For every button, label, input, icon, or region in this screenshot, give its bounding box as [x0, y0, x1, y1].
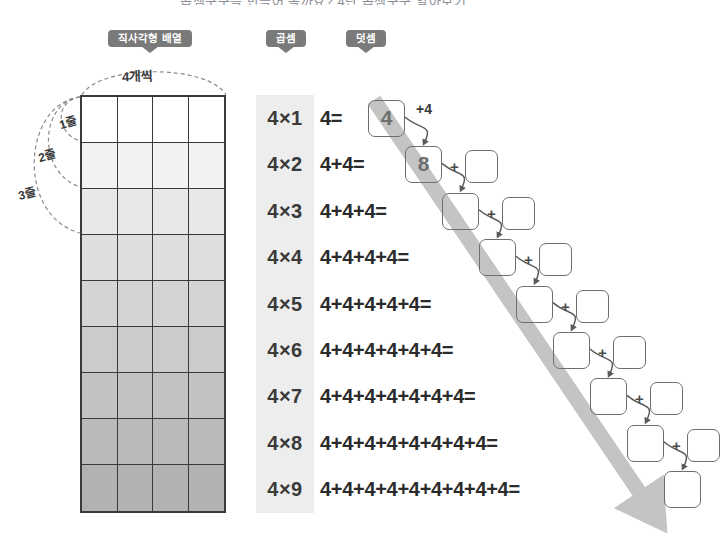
- header-tag-add: 덧셈식: [346, 30, 386, 47]
- step-increment-box[interactable]: [539, 243, 572, 276]
- answer-box[interactable]: [664, 471, 701, 508]
- array-cell: [82, 97, 118, 143]
- addition-expression: 4+4+4+4+4+4+4=: [320, 373, 475, 419]
- step-increment-box[interactable]: [613, 336, 646, 369]
- addition-expression: 4+4+4+4+4+4+4+4+4=: [320, 466, 520, 512]
- answer-box[interactable]: [590, 378, 627, 415]
- addition-row: 4=4+4: [320, 95, 689, 141]
- array-cell: [153, 419, 189, 465]
- rectangular-array-grid: [80, 95, 226, 513]
- multiplication-expression: 4×9: [256, 466, 314, 512]
- addition-expression: 4+4+4+4=: [320, 234, 409, 280]
- page-title: 곱셈구구를 만들어 볼까요? 4단 곱셈구구 알아보기: [180, 0, 680, 5]
- addition-expression: 4=: [320, 95, 342, 141]
- answer-box[interactable]: 4: [368, 100, 405, 137]
- multiplication-expression: 4×2: [256, 141, 314, 187]
- array-cell: [189, 143, 225, 189]
- array-cell: [189, 189, 225, 235]
- array-cell: [153, 97, 189, 143]
- grid-top-label: 4개씩: [122, 65, 154, 85]
- addition-row: 4+4+4+4=+: [320, 234, 689, 280]
- addition-column: 4=4+44+4=8+4+4+4=+4+4+4+4=+4+4+4+4+4=+4+…: [320, 95, 689, 513]
- array-cell: [82, 465, 118, 511]
- array-cell: [82, 419, 118, 465]
- step-increment-box[interactable]: [650, 382, 683, 415]
- array-cell: [153, 373, 189, 419]
- plus-sign: +: [487, 197, 496, 230]
- answer-box[interactable]: [516, 286, 553, 323]
- array-cell: [82, 327, 118, 373]
- addition-expression: 4+4+4+4+4=: [320, 281, 431, 327]
- array-cell: [153, 235, 189, 281]
- array-cell: [153, 465, 189, 511]
- multiplication-expression: 4×6: [256, 327, 314, 373]
- array-cell: [118, 327, 154, 373]
- addition-row: 4+4+4+4+4+4+4+4+4=: [320, 466, 689, 512]
- array-cell: [82, 281, 118, 327]
- array-cell: [118, 235, 154, 281]
- array-cell: [189, 97, 225, 143]
- step-increment-box[interactable]: [502, 197, 535, 230]
- addition-expression: 4+4+4+4+4+4+4+4=: [320, 420, 498, 466]
- addition-row: 4+4=8+: [320, 141, 689, 187]
- header-tag-array: 직사각형 배열: [108, 30, 192, 47]
- array-cell: [189, 465, 225, 511]
- addition-row: 4+4+4+4+4+4+4=+: [320, 373, 689, 419]
- array-cell: [118, 373, 154, 419]
- multiplication-expression: 4×1: [256, 95, 314, 141]
- step-increment-box[interactable]: [465, 150, 498, 183]
- array-cell: [118, 97, 154, 143]
- array-cell: [118, 281, 154, 327]
- answer-box[interactable]: [479, 239, 516, 276]
- plus-sign: +: [450, 150, 459, 183]
- header-tag-mult: 곱셈식: [266, 30, 306, 47]
- array-cell: [82, 143, 118, 189]
- array-cell: [153, 143, 189, 189]
- step-increment-box[interactable]: [687, 429, 720, 462]
- answer-box[interactable]: [627, 425, 664, 462]
- multiplication-column: 4×14×24×34×44×54×64×74×84×9: [256, 95, 314, 513]
- grid-row-label-3: 3줄: [16, 182, 37, 203]
- step-increment-label: +4: [416, 99, 432, 119]
- addition-expression: 4+4+4+4+4+4=: [320, 327, 453, 373]
- addition-expression: 4+4+4=: [320, 188, 387, 234]
- addition-row: 4+4+4+4+4+4=+: [320, 327, 689, 373]
- step-increment-box[interactable]: [576, 290, 609, 323]
- array-cell: [189, 235, 225, 281]
- array-cell: [82, 373, 118, 419]
- array-cell: [189, 419, 225, 465]
- array-cell: [118, 189, 154, 235]
- plus-sign: +: [635, 382, 644, 415]
- multiplication-expression: 4×7: [256, 373, 314, 419]
- array-cell: [153, 189, 189, 235]
- addition-row: 4+4+4+4+4+4+4+4=+: [320, 420, 689, 466]
- plus-sign: +: [524, 243, 533, 276]
- addition-row: 4+4+4+4+4=+: [320, 281, 689, 327]
- array-cell: [189, 281, 225, 327]
- multiplication-expression: 4×5: [256, 281, 314, 327]
- answer-box[interactable]: [553, 332, 590, 369]
- multiplication-expression: 4×3: [256, 188, 314, 234]
- plus-sign: +: [561, 290, 570, 323]
- array-cell: [189, 373, 225, 419]
- array-cell: [118, 465, 154, 511]
- addition-expression: 4+4=: [320, 141, 364, 187]
- array-cell: [153, 327, 189, 373]
- addition-row: 4+4+4=+: [320, 188, 689, 234]
- grid-row-label-1: 1줄: [57, 111, 79, 132]
- array-cell: [82, 189, 118, 235]
- array-cell: [118, 419, 154, 465]
- answer-box[interactable]: [442, 193, 479, 230]
- answer-box[interactable]: 8: [405, 146, 442, 183]
- plus-sign: +: [598, 336, 607, 369]
- grid-row-label-2: 2줄: [36, 144, 58, 165]
- multiplication-expression: 4×4: [256, 234, 314, 280]
- array-cell: [189, 327, 225, 373]
- multiplication-expression: 4×8: [256, 420, 314, 466]
- plus-sign: +: [672, 429, 681, 462]
- array-cell: [82, 235, 118, 281]
- array-cell: [153, 281, 189, 327]
- array-cell: [118, 143, 154, 189]
